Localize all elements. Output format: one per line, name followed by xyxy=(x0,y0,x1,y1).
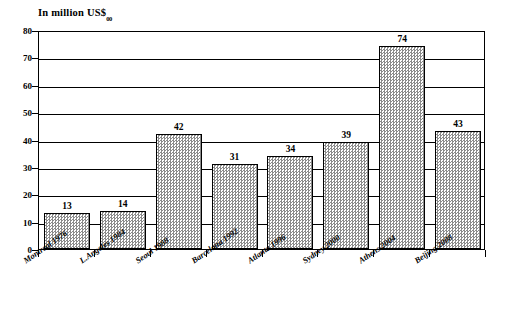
y-axis-tick-label: 70 xyxy=(8,53,32,63)
chart-title-subscript: 00 xyxy=(106,15,112,22)
y-axis-tick-label: 80 xyxy=(8,26,32,36)
chart-title: In million US$00 xyxy=(38,7,112,20)
y-axis-tick-mark xyxy=(32,168,39,169)
y-axis-tick-label: 30 xyxy=(8,163,32,173)
y-axis-tick-mark xyxy=(32,31,39,32)
y-axis-tick-mark xyxy=(32,195,39,196)
y-axis-tick-label: 20 xyxy=(8,190,32,200)
y-axis-tick-label: 10 xyxy=(8,218,32,228)
y-axis-tick-mark xyxy=(32,58,39,59)
y-axis-tick-mark xyxy=(32,223,39,224)
y-axis-tick-mark xyxy=(32,86,39,87)
chart-title-text: In million US$ xyxy=(38,7,106,18)
y-axis-tick-label: 60 xyxy=(8,81,32,91)
y-axis-tick-label: 50 xyxy=(8,108,32,118)
y-axis-tick-label: 40 xyxy=(8,136,32,146)
bar-chart: In million US$00 1314423134397443 010203… xyxy=(0,0,505,323)
y-axis-tick-mark xyxy=(32,141,39,142)
y-axis-tick-mark xyxy=(32,113,39,114)
x-axis-tick-mark xyxy=(485,250,486,257)
y-axis: 01020304050607080 xyxy=(0,31,505,250)
